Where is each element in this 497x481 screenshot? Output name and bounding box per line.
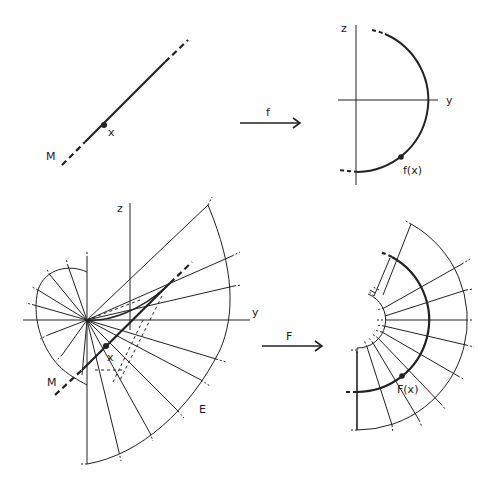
figure-canvas: M x f z y f(x) z y (0, 0, 497, 481)
point-x-dot (103, 343, 109, 349)
label-F: F (286, 330, 292, 343)
surface-E-outer-boundary (87, 205, 230, 464)
inner-arc (357, 294, 386, 348)
label-x: x (108, 126, 115, 139)
manifold-line-solid (85, 62, 165, 142)
upper-boundary (374, 258, 390, 296)
image-curve-dashed-top (380, 252, 392, 257)
y-axis-label: y (252, 306, 259, 319)
surface-E-inner-boundary (36, 268, 87, 385)
panel-bottom-right: F(x) (345, 220, 474, 433)
outer-arc (357, 224, 467, 430)
z-axis-label: z (117, 202, 123, 215)
y-axis-label: y (446, 94, 453, 107)
manifold-line-dashed-upper (170, 262, 192, 283)
panel-bottom-left: z y (23, 197, 259, 464)
tick-marks (350, 220, 474, 433)
label-f: f (266, 106, 271, 119)
image-curve-solid (357, 257, 429, 392)
label-M: M (47, 376, 57, 389)
radial-rulings (357, 224, 466, 430)
point-fx-dot (398, 154, 404, 160)
image-curve-dashed-bottom (338, 170, 358, 172)
manifold-line-dashed-lower (62, 142, 85, 165)
panel-top-left: M x (46, 40, 188, 165)
label-fx: f(x) (403, 164, 422, 177)
arrow-f: f (240, 106, 300, 128)
z-axis-label: z (341, 22, 347, 35)
label-E: E (199, 403, 206, 416)
manifold-line-dashed-upper (165, 40, 188, 62)
label-M: M (46, 150, 56, 163)
panel-top-right: z y f(x) (338, 22, 453, 185)
point-x-dot (101, 122, 107, 128)
point-Fx-dot (399, 373, 405, 379)
image-curve-solid (358, 34, 428, 172)
label-x: x (107, 351, 114, 364)
label-Fx: F(x) (397, 383, 418, 396)
arrow-F: F (262, 330, 322, 351)
image-curve-dashed-top (372, 30, 385, 34)
